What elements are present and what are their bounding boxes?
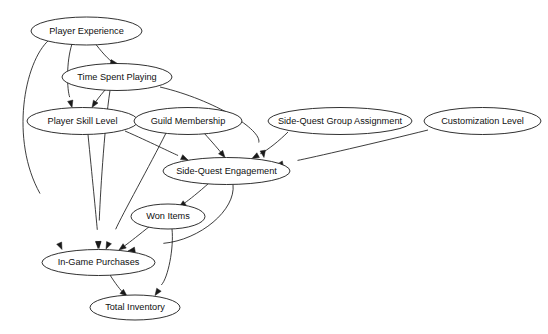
edge-won-items-to-total-inventory [155, 229, 172, 296]
edge-line [125, 131, 178, 155]
node-side_quest_group_assignment[interactable]: Side-Quest Group Assignment [268, 108, 412, 135]
node-ellipse[interactable] [424, 108, 541, 135]
edge-line [88, 135, 97, 230]
node-side_quest_engagement[interactable]: Side-Quest Engagement [163, 158, 290, 185]
edge-player-experience-to-in-game-purchases [23, 40, 62, 250]
node-player_skill_level[interactable]: Player Skill Level [27, 108, 138, 135]
arrowhead-icon [68, 100, 73, 107]
node-time_spent_playing[interactable]: Time Spent Playing [62, 64, 172, 91]
node-customization_level[interactable]: Customization Level [424, 108, 541, 135]
edge-player-skill-level-to-side-quest-engagement [125, 131, 188, 160]
node-in_game_purchases[interactable]: In-Game Purchases [42, 250, 155, 276]
edge-side-quest-engagement-to-won-items [179, 183, 209, 207]
causal-graph: Player ExperienceTime Spent PlayingPlaye… [0, 0, 548, 334]
arrowhead-icon [181, 155, 188, 160]
edge-line [125, 226, 150, 246]
arrowhead-icon [106, 242, 111, 249]
edge-guild-membership-to-side-quest-engagement [204, 133, 225, 158]
arrowhead-icon [155, 288, 161, 295]
edge-line [161, 229, 172, 285]
edge-line [110, 275, 124, 293]
node-ellipse[interactable] [268, 108, 412, 135]
node-ellipse[interactable] [42, 250, 155, 276]
arrowhead-icon [252, 153, 259, 159]
arrowhead-icon [119, 244, 126, 250]
node-ellipse[interactable] [163, 158, 290, 185]
edge-customization-level-to-side-quest-engagement [276, 130, 428, 166]
node-won_items[interactable]: Won Items [131, 204, 205, 229]
diagram-canvas: Player ExperienceTime Spent PlayingPlaye… [0, 0, 548, 334]
arrowhead-icon [57, 242, 62, 249]
edge-time-spent-playing-to-player-skill-level [92, 90, 105, 108]
node-ellipse[interactable] [27, 108, 138, 135]
edge-player-experience-to-time-spent-playing [96, 45, 118, 65]
node-ellipse[interactable] [31, 17, 142, 45]
node-ellipse[interactable] [134, 108, 242, 135]
edge-in-game-purchases-to-total-inventory [110, 275, 127, 296]
edge-line [204, 133, 222, 153]
node-total_inventory[interactable]: Total Inventory [90, 295, 180, 320]
arrowhead-icon [96, 241, 101, 248]
arrowhead-icon [219, 150, 225, 157]
edge-won-items-to-in-game-purchases [119, 226, 150, 250]
edge-line [184, 183, 209, 203]
node-guild_membership[interactable]: Guild Membership [134, 108, 242, 135]
node-ellipse[interactable] [62, 64, 172, 91]
edge-player-skill-level-to-in-game-purchases [88, 135, 101, 249]
node-ellipse[interactable] [90, 295, 180, 320]
node-ellipse[interactable] [131, 204, 205, 229]
nodes-layer: Player ExperienceTime Spent PlayingPlaye… [27, 17, 541, 320]
arrowhead-icon [92, 100, 98, 107]
node-player_experience[interactable]: Player Experience [31, 17, 142, 45]
edge-line [298, 130, 428, 160]
edge-guild-membership-to-in-game-purchases [106, 133, 166, 249]
